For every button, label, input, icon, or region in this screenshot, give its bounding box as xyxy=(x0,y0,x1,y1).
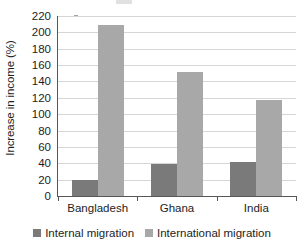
x-axis-separator xyxy=(217,196,218,201)
y-tick-label: 80 xyxy=(38,125,51,137)
x-axis-label-india: India xyxy=(244,202,269,214)
y-axis-title: Increase in income (%) xyxy=(0,0,20,196)
y-tick-label: 60 xyxy=(38,141,51,153)
y-tick-label: 20 xyxy=(38,174,51,186)
bar-chart-figure: Increase in income (%) 02040608010012014… xyxy=(0,0,304,251)
bar-india-internal xyxy=(230,162,256,196)
x-axis-line xyxy=(57,196,296,197)
y-tick-label: 40 xyxy=(38,157,51,169)
bar-bangladesh-internal xyxy=(72,180,98,196)
y-tick-label: 120 xyxy=(32,92,51,104)
chart-legend: Internal migrationInternational migratio… xyxy=(0,227,304,239)
y-tick-label: 180 xyxy=(32,43,51,55)
x-axis-label-ghana: Ghana xyxy=(160,202,195,214)
x-axis-separator xyxy=(58,196,59,201)
legend-swatch-icon xyxy=(33,229,41,237)
y-tick-label: 140 xyxy=(32,75,51,87)
gridline xyxy=(58,49,296,50)
y-tick-label: 160 xyxy=(32,59,51,71)
legend-label: International migration xyxy=(157,227,271,239)
plot-area xyxy=(58,16,296,196)
y-axis-title-text: Increase in income (%) xyxy=(4,40,16,155)
y-tick-label: 100 xyxy=(32,108,51,120)
x-axis-label-bangladesh: Bangladesh xyxy=(67,202,128,214)
bar-bangladesh-international xyxy=(98,25,124,196)
gridline xyxy=(58,16,296,17)
gridline xyxy=(58,65,296,66)
legend-item-international[interactable]: International migration xyxy=(145,227,271,239)
legend-swatch-icon xyxy=(145,229,153,237)
gridline xyxy=(58,32,296,33)
scan-artifact xyxy=(116,0,132,4)
y-tick-label: 200 xyxy=(32,26,51,38)
bar-ghana-internal xyxy=(151,164,177,196)
y-tick-label: 0 xyxy=(45,190,51,202)
bar-india-international xyxy=(256,100,282,196)
bar-ghana-international xyxy=(177,72,203,196)
legend-item-internal[interactable]: Internal migration xyxy=(33,227,134,239)
y-axis-ticks: 020406080100120140160180200220 xyxy=(20,16,54,196)
legend-label: Internal migration xyxy=(45,227,134,239)
y-tick-label: 220 xyxy=(32,10,51,22)
x-axis-separator xyxy=(296,196,297,201)
x-axis-labels: BangladeshGhanaIndia xyxy=(58,202,296,220)
x-axis-separator xyxy=(137,196,138,201)
